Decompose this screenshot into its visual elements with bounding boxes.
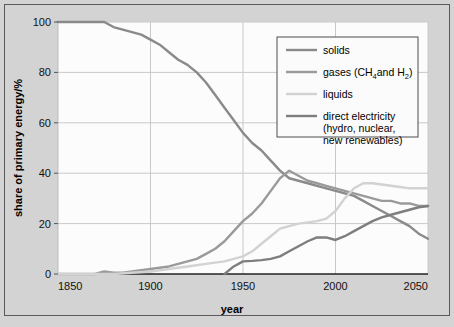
x-tick-1900: 1900 (138, 280, 162, 292)
x-tick-2050: 2050 (404, 280, 428, 292)
y-tick-20: 20 (39, 218, 51, 230)
y-tick-60: 60 (39, 117, 51, 129)
legend-label-liquids: liquids (323, 88, 353, 100)
legend-label-solids: solids (323, 44, 350, 56)
y-tick-80: 80 (39, 66, 51, 78)
legend-label-direct-electricity-line2: (hydro, nuclear, (323, 122, 395, 134)
x-tick-1950: 1950 (231, 280, 255, 292)
y-axis-title: share of primary energy/% (12, 79, 24, 217)
x-tick-2000: 2000 (323, 280, 347, 292)
chart-figure: 020406080100 18501900195020002050 year s… (0, 0, 454, 327)
x-tick-labels: 18501900195020002050 (58, 280, 428, 292)
legend-label-direct-electricity: direct electricity (323, 110, 396, 122)
y-tick-0: 0 (45, 268, 51, 280)
line-chart-svg: 020406080100 18501900195020002050 year s… (0, 0, 454, 327)
legend-label-direct-electricity-line3: new renewables) (323, 134, 402, 146)
y-tick-100: 100 (33, 16, 51, 28)
x-tick-1850: 1850 (58, 280, 82, 292)
x-axis-title: year (221, 303, 244, 315)
y-tick-40: 40 (39, 167, 51, 179)
plot-wrapper: 020406080100 18501900195020002050 year s… (0, 0, 454, 327)
y-tick-labels: 020406080100 (33, 16, 58, 280)
chart-legend: solids gases (CH4and H2) liquids direct … (277, 37, 418, 146)
